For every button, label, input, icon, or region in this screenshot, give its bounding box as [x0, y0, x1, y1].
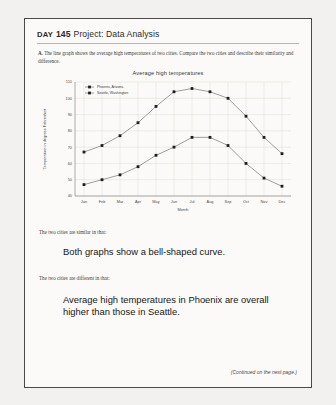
data-point-marker	[281, 152, 284, 155]
data-point-marker	[137, 121, 140, 124]
x-tick-label: Mar	[117, 199, 124, 204]
line-chart: Average high temperatures 40506070809010…	[36, 70, 300, 220]
data-point-marker	[173, 146, 176, 149]
prompt-text: The line graph shows the average high te…	[38, 50, 293, 64]
x-tick-label: Jun	[171, 199, 177, 204]
y-tick-label: 70	[68, 145, 73, 150]
x-tick-label: Feb	[99, 199, 106, 204]
data-point-marker	[155, 105, 158, 108]
data-point-marker	[83, 151, 86, 154]
data-point-marker	[209, 90, 212, 93]
chart-canvas: 405060708090100110JanFebMarAprMayJunJulA…	[39, 78, 297, 218]
x-tick-label: Sep	[225, 199, 232, 204]
x-tick-label: Jul	[190, 199, 195, 204]
footer-note: (Continued on the next page.)	[231, 369, 297, 375]
data-point-marker	[245, 115, 248, 118]
legend-label: Seattle, Washington	[97, 91, 128, 95]
prompt-marker: A.	[38, 50, 43, 56]
y-tick-label: 40	[68, 193, 73, 198]
data-point-marker	[191, 136, 194, 139]
data-point-marker	[101, 144, 104, 147]
data-point-marker	[191, 87, 194, 90]
data-point-marker	[155, 154, 158, 157]
page-content: Day 145 Project: Data Analysis A. The li…	[25, 19, 311, 387]
data-point-marker	[245, 162, 248, 165]
y-tick-label: 110	[66, 79, 73, 84]
similar-answer[interactable]: Both graphs show a bell-shaped curve.	[63, 246, 288, 259]
similar-lead-in: The two cities are similar in that:	[39, 229, 300, 235]
y-tick-label: 50	[68, 177, 73, 182]
data-point-marker	[281, 185, 284, 188]
y-tick-label: 100	[66, 96, 73, 101]
x-tick-label: Apr	[135, 199, 142, 204]
data-point-marker	[101, 178, 104, 181]
data-point-marker	[137, 165, 140, 168]
worksheet-page: Day 145 Project: Data Analysis A. The li…	[24, 18, 312, 388]
series-line	[84, 137, 282, 186]
y-axis-title: Temperature in degrees Fahrenheit	[42, 108, 47, 170]
legend-swatch-marker	[88, 86, 91, 89]
different-answer[interactable]: Average high temperatures in Phoenix are…	[63, 294, 288, 319]
data-point-marker	[227, 144, 230, 147]
title-divider	[37, 43, 299, 44]
x-tick-label: Jan	[81, 199, 87, 204]
y-tick-label: 60	[68, 161, 73, 166]
data-point-marker	[119, 134, 122, 137]
x-tick-label: Nov	[261, 199, 268, 204]
day-label: Day	[37, 30, 53, 39]
data-point-marker	[83, 183, 86, 186]
data-point-marker	[119, 173, 122, 176]
x-axis-title: Month	[178, 207, 189, 212]
prompt-paragraph: A. The line graph shows the average high…	[38, 49, 298, 66]
data-point-marker	[173, 90, 176, 93]
project-title: Project: Data Analysis	[74, 29, 160, 39]
data-point-marker	[209, 136, 212, 139]
legend-label: Phoenix, Arizona	[97, 85, 123, 89]
data-point-marker	[263, 177, 266, 180]
different-lead-in: The two cities are different in that:	[39, 275, 300, 281]
day-number: 145	[56, 29, 71, 39]
data-point-marker	[227, 97, 230, 100]
chart-title: Average high temperatures	[36, 70, 300, 76]
y-tick-label: 80	[68, 128, 73, 133]
data-point-marker	[263, 136, 266, 139]
x-tick-label: Aug	[207, 199, 214, 204]
x-tick-label: May	[152, 199, 159, 204]
page-title: Day 145 Project: Data Analysis	[37, 29, 300, 39]
legend-swatch-marker	[88, 92, 91, 95]
x-tick-label: Oct	[243, 199, 250, 204]
x-tick-label: Dec	[279, 199, 286, 204]
y-tick-label: 90	[68, 112, 73, 117]
